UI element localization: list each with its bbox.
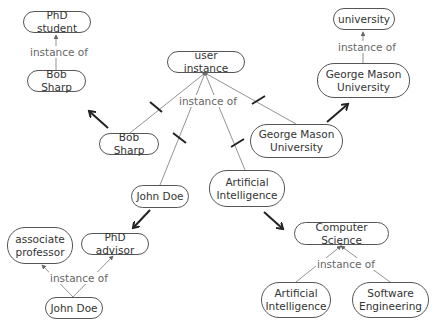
node-university: university <box>333 8 395 30</box>
node-gmu-top: George Mason University <box>317 63 410 98</box>
node-gmu-mid: George Mason University <box>250 124 343 158</box>
node-john-doe-mid: John Doe <box>131 185 189 208</box>
node-ai-bottom: Artificial Intelligence <box>261 282 331 318</box>
label-instance-of-center: instance of <box>178 95 238 107</box>
node-user-instance: user instance <box>167 51 245 73</box>
node-phd-advisor: PhD advisor <box>81 233 149 255</box>
label-instance-of-top-right: instance of <box>337 41 397 53</box>
node-computer-science: Computer Science <box>294 222 389 245</box>
node-software-engineering: Software Engineering <box>352 282 429 318</box>
label-instance-of-bottom-right: instance of <box>316 258 376 270</box>
diagram-canvas: PhD student Bob Sharp user instance univ… <box>0 0 441 328</box>
node-associate-professor: associate professor <box>7 227 73 264</box>
label-instance-of-top-left: instance of <box>29 46 89 58</box>
node-bob-sharp-mid: Bob Sharp <box>99 133 159 155</box>
node-bob-sharp-top: Bob Sharp <box>27 70 86 92</box>
node-phd-student: PhD student <box>23 11 91 33</box>
node-ai-mid: Artificial Intelligence <box>209 170 285 207</box>
label-instance-of-bottom-left: instance of <box>49 272 109 284</box>
node-john-doe-bottom: John Doe <box>45 297 103 319</box>
